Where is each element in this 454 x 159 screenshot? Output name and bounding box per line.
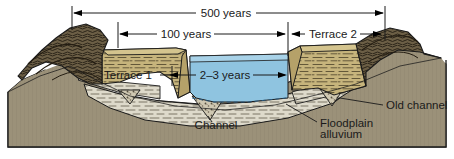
dimension-terrace2-label: Terrace 2 xyxy=(309,28,357,40)
arrow-left-icon-500 xyxy=(73,10,82,16)
arrow-right-icon-500 xyxy=(375,10,384,16)
river-terrace-block-diagram: 500 years 100 years Terrace 2 2–3 years xyxy=(0,0,454,159)
dimension-100-years: 100 years xyxy=(119,28,286,40)
dimension-500-years: 500 years xyxy=(73,7,384,19)
label-floodplain-line-2: alluvium xyxy=(320,128,362,140)
arrow-right-icon-100 xyxy=(277,31,286,37)
dimension-channel-label: 2–3 years xyxy=(200,69,251,81)
label-old-channel: Old channel xyxy=(386,99,447,111)
arrow-left-icon-100 xyxy=(119,31,128,37)
dimension-100-label: 100 years xyxy=(161,28,212,40)
label-channel: Channel xyxy=(195,119,238,131)
arrow-left-icon-terrace2 xyxy=(291,31,300,37)
label-terrace-1: Terrace 1 xyxy=(104,69,152,81)
dimension-500-label: 500 years xyxy=(201,7,252,19)
terrace-1-tread xyxy=(102,48,186,55)
